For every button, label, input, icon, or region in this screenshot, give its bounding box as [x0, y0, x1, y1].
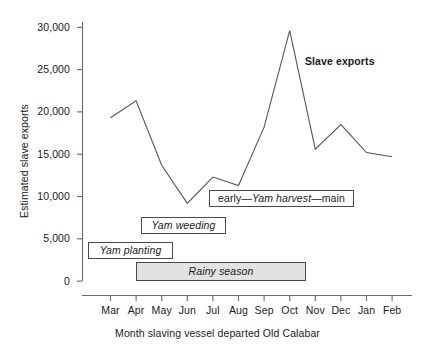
annotation-rainy-season: Rainy season [136, 262, 306, 281]
yam-harvest-italic: Yam harvest [252, 193, 311, 204]
y-tick-label-0: 0 [14, 276, 70, 287]
y-tick-label-30000: 30,000 [14, 22, 70, 33]
yam-planting-text: Yam planting [100, 245, 162, 256]
x-tick-label-feb: Feb [372, 305, 412, 316]
x-tick-marks [111, 296, 393, 301]
yam-weeding-text: Yam weeding [152, 220, 216, 231]
annotation-yam-harvest: early—Yam harvest—main [209, 190, 354, 207]
yam-harvest-prefix: early— [218, 193, 252, 204]
series-label-slave-exports: Slave exports [305, 55, 375, 67]
annotation-yam-planting: Yam planting [88, 242, 173, 259]
x-axis-title: Month slaving vessel departed Old Calaba… [0, 327, 435, 339]
annotation-yam-weeding: Yam weeding [141, 217, 226, 234]
chart-figure: 30,000 25,000 20,000 15,000 10,000 5,000… [0, 0, 435, 351]
y-tick-marks [77, 27, 82, 281]
rainy-season-text: Rainy season [189, 266, 254, 277]
y-axis-title: Estimated slave exports [18, 66, 30, 256]
yam-harvest-suffix: —main [311, 193, 345, 204]
chart-canvas [0, 0, 435, 351]
